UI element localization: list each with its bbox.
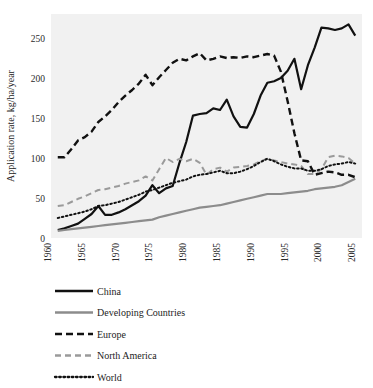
- x-tick-label: 2000: [313, 243, 323, 262]
- legend-label-europe: Europe: [97, 329, 126, 340]
- y-tick-label: 250: [31, 34, 46, 44]
- x-tick-label: 1970: [111, 243, 121, 262]
- chart-figure: 050100150200250 196019651970197519801985…: [0, 0, 373, 388]
- x-tick-label: 1995: [280, 243, 290, 262]
- legend-label-developing-countries: Developing Countries: [97, 307, 185, 318]
- legend-label-north-america: North America: [97, 350, 157, 361]
- y-tick-label: 200: [31, 74, 46, 84]
- y-tick-label: 100: [31, 154, 46, 164]
- y-axis-title: Application rate, kg/ha/year: [5, 69, 16, 182]
- x-tick-label: 1980: [178, 243, 188, 262]
- line-chart-svg: 050100150200250 196019651970197519801985…: [0, 0, 373, 388]
- legend-label-china: China: [97, 286, 121, 297]
- y-tick-label: 0: [40, 234, 45, 244]
- y-tick-label: 50: [36, 194, 46, 204]
- x-tick-label: 1975: [144, 243, 154, 262]
- x-tick-label: 1985: [212, 243, 222, 262]
- x-tick-label: 2005: [347, 243, 357, 262]
- y-tick-label: 150: [31, 114, 46, 124]
- x-tick-label: 1990: [246, 243, 256, 262]
- x-tick-label: 1965: [77, 243, 87, 262]
- legend-label-world: World: [97, 372, 122, 383]
- x-tick-label: 1960: [43, 243, 53, 262]
